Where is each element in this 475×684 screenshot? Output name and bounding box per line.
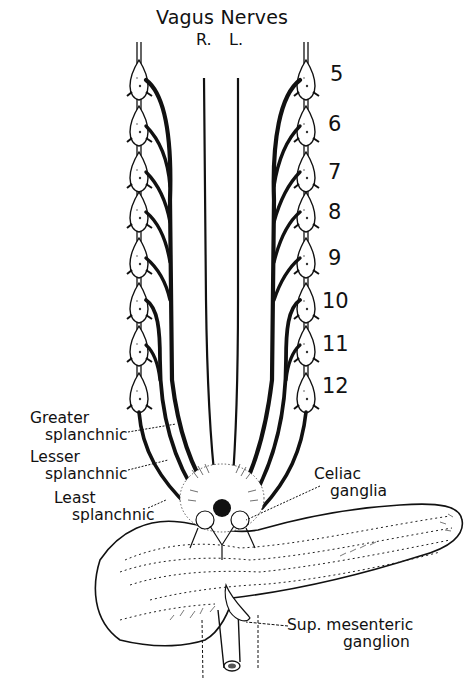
diagram-title: Vagus Nerves: [156, 8, 288, 27]
splanchnic-nerves-left: [139, 80, 212, 508]
segment-label-10: 10: [322, 291, 349, 312]
segment-label-12: 12: [322, 376, 349, 397]
sup-mesenteric-ganglion-label: Sup. mesenteric ganglion: [287, 617, 413, 651]
sympathetic-chain-right: [294, 42, 319, 413]
left-vagus-nerve: [232, 78, 238, 490]
least-splanchnic-label: Least splanchnic: [54, 490, 155, 524]
segment-label-6: 6: [328, 114, 341, 135]
left-vagus-label: L.: [229, 32, 243, 48]
splanchnic-nerves-right: [238, 80, 306, 508]
celiac-ganglia-label: Celiac ganglia: [314, 466, 387, 500]
sympathetic-chain-left: [127, 42, 152, 413]
lesser-splanchnic-label: Lesser splanchnic: [30, 449, 128, 483]
segment-label-7: 7: [328, 162, 341, 183]
segment-label-11: 11: [322, 334, 349, 355]
vagus-nerves: [204, 78, 238, 490]
right-vagus-label: R.: [196, 32, 212, 48]
greater-splanchnic-label: Greater splanchnic: [30, 410, 128, 444]
segment-label-9: 9: [328, 248, 341, 269]
segment-label-8: 8: [328, 202, 341, 223]
anatomy-drawing: [0, 0, 475, 684]
right-vagus-nerve: [204, 78, 216, 490]
splanchnic-nerve-diagram: Vagus Nerves R. L. 5 6 7 8 9 10 11 12 Gr…: [0, 0, 475, 684]
segment-label-5: 5: [330, 64, 343, 85]
